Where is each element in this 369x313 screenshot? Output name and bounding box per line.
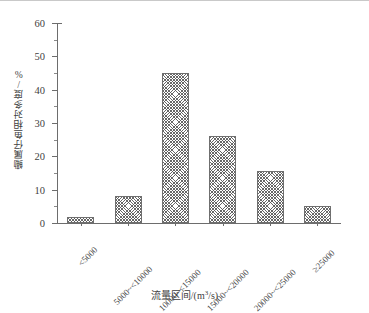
y-tick-label: 60: [35, 18, 46, 29]
x-tick-mark: [270, 223, 271, 226]
x-tick-label: 15000~<20000: [243, 227, 290, 274]
y-tick-label: 0: [40, 218, 45, 229]
y-tick-major: 20: [52, 156, 57, 157]
x-tick-label: 5000~<10000: [147, 227, 191, 271]
y-tick-label: 20: [35, 151, 46, 162]
x-tick-label-wrap: 20000~<25000: [274, 227, 275, 228]
x-tick-mark: [128, 223, 129, 226]
bar: [162, 73, 189, 223]
y-tick-minor: [54, 140, 57, 141]
x-axis-title-tail: /s): [208, 290, 218, 301]
y-tick-label: 50: [35, 51, 46, 62]
x-tick-mark: [317, 223, 318, 226]
x-tick-label-wrap: 10000~<15000: [179, 227, 180, 228]
y-tick-major: 60: [52, 23, 57, 24]
y-axis-top-cap: [57, 23, 62, 24]
x-axis-line: [57, 223, 341, 224]
y-tick-label: 10: [35, 184, 46, 195]
y-tick-minor: [54, 40, 57, 41]
y-tick-major: 10: [52, 190, 57, 191]
x-tick-mark: [175, 223, 176, 226]
x-tick-mark: [223, 223, 224, 226]
bar: [209, 136, 236, 223]
x-tick-label-wrap: 5000~<10000: [132, 227, 133, 228]
y-tick-minor: [54, 106, 57, 107]
plot-area: 0102030405060 <50005000~<1000010000~<150…: [57, 23, 341, 223]
y-tick-label: 30: [35, 118, 46, 129]
bar: [304, 206, 331, 223]
y-tick-minor: [54, 73, 57, 74]
y-tick-major: 40: [52, 90, 57, 91]
x-tick-label-wrap: <5000: [85, 227, 86, 228]
y-axis-line: [57, 23, 58, 223]
x-axis-title: 流量区间/(m3/s): [0, 287, 369, 302]
x-tick-label: <5000: [92, 227, 117, 252]
x-tick-label: 10000~<15000: [196, 227, 243, 274]
y-tick-minor: [54, 173, 57, 174]
y-tick-label: 40: [35, 84, 46, 95]
x-tick-label-wrap: 15000~<20000: [227, 227, 228, 228]
x-tick-label-wrap: ≥25000: [321, 227, 322, 228]
y-tick-major: 30: [52, 123, 57, 124]
y-tick-major: 50: [52, 56, 57, 57]
bar: [115, 196, 142, 223]
y-tick-minor: [54, 206, 57, 207]
y-axis-title: 鳓属仔鱼相对多度/%: [10, 49, 28, 189]
y-tick-major: 0: [52, 223, 57, 224]
x-axis-title-main: 流量区间/(m: [151, 290, 205, 301]
bar: [257, 171, 284, 223]
figure-canvas: 鳓属仔鱼相对多度/% 0102030405060 <50005000~<1000…: [0, 0, 369, 313]
x-tick-mark: [81, 223, 82, 226]
